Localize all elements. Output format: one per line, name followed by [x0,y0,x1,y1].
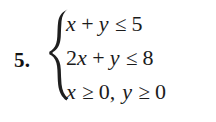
problem-number: 5. [14,50,30,71]
constant-value: 0 [155,81,166,103]
term-y: y [99,13,109,35]
coefficient-2: 2 [66,47,77,69]
less-than-or-equal-icon: ≤ [126,48,138,69]
greater-than-or-equal-icon: ≥ [82,82,94,103]
constant-value: 8 [142,47,153,69]
less-than-or-equal-icon: ≤ [115,14,127,35]
inequality-row-3: x ≥ 0 , y ≥ 0 [66,75,216,109]
term-x: x [66,81,76,103]
greater-than-or-equal-icon: ≥ [139,82,151,103]
plus-operator: + [81,13,93,35]
term-x: x [77,47,87,69]
system-of-inequalities: x + y ≤ 5 2 x + y ≤ 8 x ≥ 0 , y ≥ 0 [66,7,216,109]
constant-value: 0 [99,81,110,103]
constant-value: 5 [131,13,142,35]
comma-separator: , [110,81,116,103]
exercise-block: 5. x + y ≤ 5 2 x + y ≤ 8 x ≥ 0 , y ≥ [0,0,216,122]
inequality-row-2: 2 x + y ≤ 8 [66,41,216,75]
term-y: y [110,47,120,69]
term-x: x [66,13,76,35]
term-y: y [122,81,132,103]
inequality-row-1: x + y ≤ 5 [66,7,216,41]
plus-operator: + [92,47,104,69]
